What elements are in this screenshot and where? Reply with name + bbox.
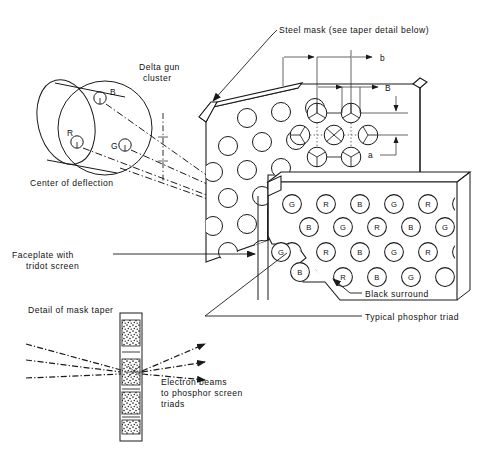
delta-gun-cluster: B R G xyxy=(28,74,152,175)
svg-text:B: B xyxy=(306,223,311,232)
dimension-b: b xyxy=(380,53,385,63)
faceplate-label-line2: tridot screen xyxy=(26,261,79,271)
svg-text:B: B xyxy=(459,200,464,209)
diagram-canvas: B R G Delta gun cluster Center of deflec… xyxy=(0,0,491,458)
svg-text:G: G xyxy=(442,223,448,232)
gun-b: B xyxy=(94,87,116,104)
gun-b-label: B xyxy=(110,87,116,97)
svg-text:R: R xyxy=(425,248,431,257)
phosphor-dot: R xyxy=(317,195,336,214)
svg-text:B: B xyxy=(374,273,379,282)
phosphor-dot: B xyxy=(402,218,421,237)
phosphor-dot: B xyxy=(300,218,319,237)
svg-text:Delta gun: Delta gun xyxy=(139,62,180,72)
svg-text:R: R xyxy=(374,223,380,232)
phosphor-dot xyxy=(436,268,455,287)
svg-text:B: B xyxy=(357,248,362,257)
aperture-wedge-center xyxy=(324,125,344,145)
crt-diagram-svg: B R G Delta gun cluster Center of deflec… xyxy=(0,0,491,458)
mask-taper-detail: Detail of mask taper Electron beams to p… xyxy=(26,305,243,441)
center-of-deflection-label: Center of deflection xyxy=(30,178,114,188)
delta-gun-cluster-label: Delta gun cluster xyxy=(139,62,180,83)
phosphor-dot: B xyxy=(351,195,370,214)
phosphor-dot: G xyxy=(436,218,455,237)
gun-r: R xyxy=(67,128,83,148)
gun-r-label: R xyxy=(67,128,73,138)
phosphor-dot: G xyxy=(402,268,421,287)
phosphor-screen-panel: G R B G R B B G R B G G R B G R B R B G xyxy=(268,172,488,300)
aperture-wedge xyxy=(290,125,310,145)
svg-text:G: G xyxy=(289,200,295,209)
electron-beams-label-line2: to phosphor screen xyxy=(161,388,243,398)
aperture-wedge xyxy=(358,125,378,145)
phosphor-dot: R xyxy=(317,243,336,262)
center-of-deflection: Center of deflection xyxy=(30,113,168,188)
svg-text:cluster: cluster xyxy=(143,73,171,83)
svg-text:G: G xyxy=(391,200,397,209)
svg-text:G: G xyxy=(340,223,346,232)
phosphor-dot: B xyxy=(351,243,370,262)
svg-text:G: G xyxy=(391,248,397,257)
phosphor-dot: G xyxy=(334,218,353,237)
black-surround-label: Black surround xyxy=(365,289,429,299)
phosphor-dot xyxy=(470,268,489,287)
dimension-a: a xyxy=(368,150,373,160)
electron-beams-label-line1: Electron beams xyxy=(161,377,227,387)
svg-text:B: B xyxy=(408,223,413,232)
svg-text:R: R xyxy=(323,248,329,257)
typical-phosphor-triad-label: Typical phosphor triad xyxy=(365,312,459,322)
faceplate-label-line1: Faceplate with xyxy=(12,250,74,260)
gun-g-label: G xyxy=(111,141,118,151)
gun-g: G xyxy=(111,139,131,151)
svg-text:B: B xyxy=(357,200,362,209)
aperture-wedge xyxy=(341,147,361,167)
detail-of-mask-taper-label: Detail of mask taper xyxy=(28,305,113,315)
phosphor-dot: R xyxy=(419,243,438,262)
svg-text:B: B xyxy=(459,248,464,257)
mask-strip-cross-section xyxy=(120,313,142,441)
electron-beams-label-line3: triads xyxy=(161,399,185,409)
aperture-wedge xyxy=(307,147,327,167)
dimension-B: B xyxy=(385,83,391,93)
svg-text:R: R xyxy=(323,200,329,209)
svg-text:G: G xyxy=(408,273,414,282)
svg-text:R: R xyxy=(425,200,431,209)
phosphor-dot: R xyxy=(419,195,438,214)
phosphor-dot: G xyxy=(283,195,302,214)
phosphor-dot: G xyxy=(385,195,404,214)
phosphor-dot: B xyxy=(368,268,387,287)
svg-text:R: R xyxy=(340,273,346,282)
phosphor-dot: G xyxy=(385,243,404,262)
phosphor-dot: R xyxy=(368,218,387,237)
svg-text:B: B xyxy=(297,268,302,277)
phosphor-dot xyxy=(470,218,489,237)
phosphor-dot: R xyxy=(334,268,353,287)
steel-mask-label: Steel mask (see taper detail below) xyxy=(279,25,429,35)
